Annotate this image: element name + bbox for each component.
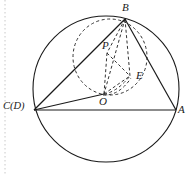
segment-bp xyxy=(107,19,125,53)
vertex-label-cd: C(D) xyxy=(3,101,25,112)
geometry-figure: B P E O C(D) A xyxy=(0,0,191,174)
vertex-label-p: P xyxy=(102,40,109,51)
segment-co xyxy=(34,94,104,110)
dashed-arc-o-e-lower xyxy=(103,78,131,95)
vertex-label-a: A xyxy=(178,104,185,115)
segment-cb xyxy=(34,19,125,110)
geometry-canvas xyxy=(0,0,191,174)
vertex-label-b: B xyxy=(122,2,129,13)
vertex-label-o: O xyxy=(99,96,107,107)
segment-ba xyxy=(125,19,176,110)
dashed-auxiliary-circle xyxy=(73,19,147,95)
vertex-label-e: E xyxy=(136,70,143,81)
